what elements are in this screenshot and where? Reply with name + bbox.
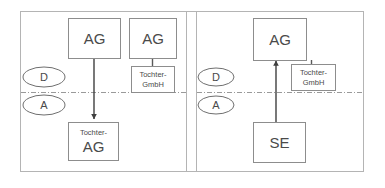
marker-a-left-label: A: [40, 99, 48, 111]
node-left-ag-parent-label: AG: [84, 30, 106, 47]
regime-markers: D A D A: [23, 67, 234, 115]
marker-d-left-label: D: [40, 71, 48, 83]
node-left-tochter-ag-label-line2: AG: [83, 138, 105, 155]
node-right-ag-parent-label: AG: [269, 31, 291, 48]
diagram-canvas: AG AG Tochter- GmbH Tochter- AG AG To: [0, 0, 385, 188]
node-left-tochter-gmbh-label-line1: Tochter-: [139, 70, 167, 79]
node-right-tochter-gmbh-label-line2: GmbH: [303, 78, 325, 87]
diagram-root: AG AG Tochter- GmbH Tochter- AG AG To: [0, 0, 385, 188]
node-right-tochter-gmbh-label-line1: Tochter-: [300, 68, 328, 77]
panel-right: AG Tochter- GmbH SE: [254, 19, 336, 163]
node-left-tochter-gmbh-label-line2: GmbH: [142, 80, 164, 89]
marker-a-right-label: A: [212, 99, 220, 111]
node-left-tochter-ag-label-line1: Tochter-: [80, 128, 108, 137]
panel-left: AG AG Tochter- GmbH Tochter- AG: [69, 19, 177, 161]
marker-d-right-label: D: [212, 71, 220, 83]
node-right-se-label: SE: [269, 134, 289, 151]
node-left-ag-second-label: AG: [142, 30, 164, 47]
